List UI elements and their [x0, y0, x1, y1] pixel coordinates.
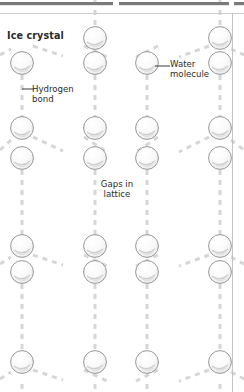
water-molecule [209, 52, 232, 75]
water-molecule [209, 27, 232, 50]
water-molecule [11, 52, 34, 75]
water-molecule [84, 147, 107, 170]
top-rule [0, 13, 244, 14]
ice-crystal-figure: Ice crystal Water molecule Hydrogen bond… [0, 0, 244, 392]
water-molecule [11, 117, 34, 140]
water-molecule [11, 351, 34, 374]
water-molecule [11, 261, 34, 284]
water-molecule [136, 235, 159, 258]
water-molecule [209, 235, 232, 258]
gaps-in-lattice-label: Gaps in lattice [86, 180, 148, 199]
water-molecule [84, 52, 107, 75]
right-margin-rule [232, 13, 233, 392]
water-molecule [84, 117, 107, 140]
top-bar-segment [0, 2, 113, 5]
top-bar-segment [234, 2, 244, 5]
water-molecule [136, 52, 159, 75]
water-molecule [209, 117, 232, 140]
water-molecule [136, 147, 159, 170]
hydrogen-bond-label: Hydrogen bond [32, 85, 74, 104]
water-molecule [136, 261, 159, 284]
water-molecule [11, 235, 34, 258]
water-molecule [84, 27, 107, 50]
water-molecule [209, 261, 232, 284]
water-molecule [136, 351, 159, 374]
water-molecule [84, 235, 107, 258]
water-molecule [136, 117, 159, 140]
water-molecule [209, 351, 232, 374]
water-molecule [11, 147, 34, 170]
water-molecule-label: Water molecule [170, 60, 209, 79]
ice-crystal-label: Ice crystal [7, 31, 64, 42]
water-molecule [84, 351, 107, 374]
top-bar-segment [119, 2, 229, 5]
water-molecule [209, 147, 232, 170]
water-molecule [84, 261, 107, 284]
